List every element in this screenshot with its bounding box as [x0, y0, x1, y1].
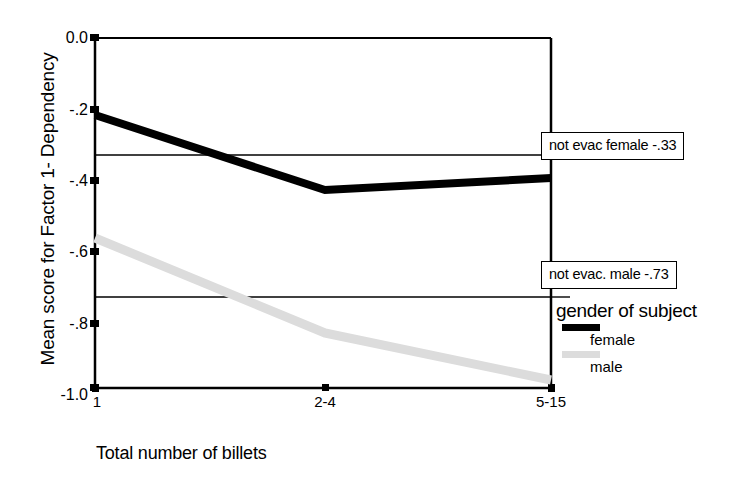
y-tick-mark-2: [90, 177, 99, 184]
x-tick-mark-2-4: [322, 384, 329, 391]
series-line-male: [95, 238, 551, 380]
x-tick-mark-1: [92, 384, 99, 392]
callout-not-evac-male: not evac. male -.73: [541, 261, 677, 289]
y-tick-mark-0: [90, 34, 99, 41]
callout-not-evac-female: not evac female -.33: [541, 132, 684, 160]
series-line-female: [95, 115, 551, 190]
chart-container: Mean score for Factor 1- Dependency 0.0 …: [0, 0, 739, 484]
y-tick-mark-3: [90, 248, 99, 255]
legend-item-female: female: [556, 324, 731, 347]
legend-title: gender of subject: [556, 300, 731, 321]
legend-item-male: male: [556, 351, 731, 374]
x-axis-title: Total number of billets: [96, 443, 267, 464]
legend: gender of subject female male: [556, 300, 731, 378]
legend-swatch-male-icon: [562, 351, 600, 358]
x-tick-mark-5-15: [548, 384, 555, 392]
legend-swatch-female-icon: [562, 324, 600, 331]
legend-label-female: female: [590, 332, 731, 347]
legend-label-male: male: [590, 359, 731, 374]
plot-area: [0, 0, 739, 484]
y-tick-mark-4: [90, 320, 99, 327]
